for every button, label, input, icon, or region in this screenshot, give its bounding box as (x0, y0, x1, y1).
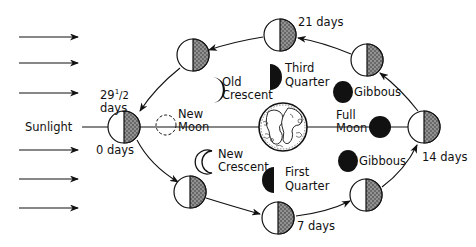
day-label-21: 21 days (298, 15, 343, 29)
sunlight-label: Sunlight (25, 120, 73, 134)
third-quarter-icon (270, 64, 282, 90)
gibbous-waxing-label: Gibbous (359, 154, 406, 168)
svg-text:Moon: Moon (178, 120, 209, 134)
orbit-arrow-icon (137, 140, 178, 182)
orbit-arrow-icon (298, 38, 351, 54)
moon-0-days (108, 111, 140, 143)
svg-text:Quarter: Quarter (285, 75, 330, 89)
svg-text:Old: Old (222, 75, 242, 89)
svg-text:Full: Full (336, 108, 356, 122)
svg-text:Quarter: Quarter (285, 179, 330, 193)
lunar-phase-diagram: Sunlight (0, 0, 476, 247)
new-moon-icon (156, 115, 176, 135)
svg-text:First: First (285, 165, 310, 179)
svg-text:Moon: Moon (336, 121, 367, 135)
moon-14-days (408, 111, 440, 143)
orbit-arrow-icon (140, 68, 180, 111)
svg-text:New: New (178, 107, 203, 121)
moon-21-days (264, 19, 296, 51)
day-label-0: 0 days (96, 143, 134, 157)
svg-text:Crescent: Crescent (218, 160, 269, 174)
moon-bottom-right (350, 179, 382, 211)
full-moon-label: Full Moon (336, 108, 367, 135)
new-crescent-icon (195, 150, 212, 174)
svg-text:New: New (218, 147, 243, 161)
day-label-29-5: 291/2 days (100, 88, 129, 115)
svg-text:291/2: 291/2 (100, 88, 129, 102)
moon-top-left (177, 39, 209, 71)
earth-icon (259, 103, 307, 151)
day-label-7: 7 days (297, 219, 335, 233)
full-moon-icon (369, 116, 391, 138)
gibbous-waning-icon (333, 81, 353, 103)
day-label-14: 14 days (422, 150, 467, 164)
orbit-arrow-icon (209, 37, 263, 50)
moon-7-days (262, 202, 294, 234)
orbit-arrow-icon (296, 201, 350, 216)
orbit-arrow-icon (206, 198, 260, 214)
svg-text:Third: Third (284, 61, 314, 75)
new-moon-label: New Moon (178, 107, 209, 134)
first-quarter-label: First Quarter (285, 165, 330, 193)
svg-text:Crescent: Crescent (222, 88, 273, 102)
moon-top-right (351, 44, 383, 76)
old-crescent-label: Old Crescent (222, 75, 273, 102)
new-crescent-label: New Crescent (218, 147, 269, 174)
moon-bottom-left (174, 176, 206, 208)
svg-text:days: days (100, 101, 127, 115)
gibbous-waning-label: Gibbous (354, 85, 401, 99)
third-quarter-label: Third Quarter (284, 61, 330, 89)
gibbous-waxing-icon (338, 150, 358, 172)
